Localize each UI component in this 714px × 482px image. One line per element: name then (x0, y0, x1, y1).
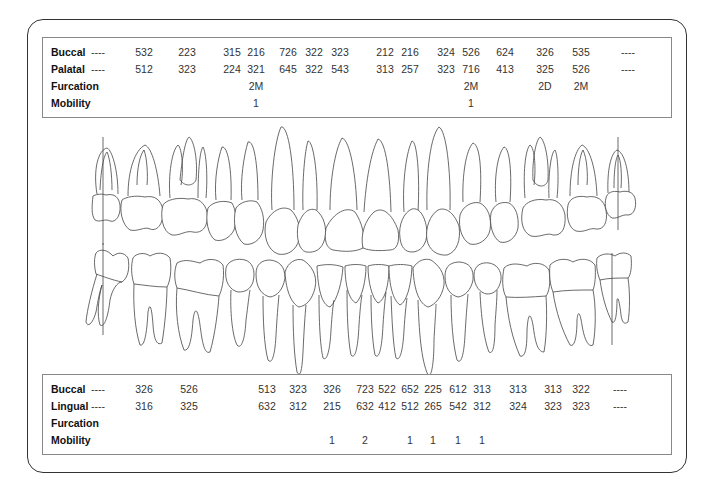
buccal-cell: 526 (462, 46, 480, 58)
lingual-cell: 323 (572, 400, 590, 412)
palatal-cell: 413 (496, 63, 514, 75)
lingual-cell: 312 (289, 400, 307, 412)
lingual-cell: ---- (91, 400, 105, 412)
upper-periodontal-table: Buccal ---- 532 223 315 216 726 322 323 … (42, 37, 672, 118)
lingual-cell: 325 (180, 400, 198, 412)
lingual-cell: 215 (323, 400, 341, 412)
mobility-cell: 1 (329, 434, 335, 446)
row-label-palatal: Palatal (51, 63, 85, 75)
buccal-cell: 513 (258, 383, 276, 395)
lingual-cell: 632 (258, 400, 276, 412)
buccal-cell: 535 (572, 46, 590, 58)
palatal-cell: ---- (91, 63, 105, 75)
furcation-cell: 2M (574, 80, 589, 92)
buccal-cell: 216 (247, 46, 265, 58)
palatal-cell: 716 (462, 63, 480, 75)
palatal-cell: 323 (178, 63, 196, 75)
row-label-buccal: Buccal (51, 46, 85, 58)
lingual-cell: 632 (356, 400, 374, 412)
upper-arch (92, 127, 636, 255)
buccal-cell: 313 (509, 383, 527, 395)
palatal-cell: 512 (135, 63, 153, 75)
mobility-cell: 1 (253, 97, 259, 109)
buccal-cell: 225 (424, 383, 442, 395)
buccal-row: Buccal ---- 532 223 315 216 726 322 323 … (43, 46, 671, 63)
buccal-cell: 612 (449, 383, 467, 395)
lower-arch (86, 243, 631, 375)
mobility-cell: 1 (430, 434, 436, 446)
buccal-cell: ---- (91, 46, 105, 58)
palatal-cell: ---- (621, 63, 635, 75)
buccal-cell: 315 (223, 46, 241, 58)
buccal-cell: 313 (473, 383, 491, 395)
buccal-cell: 652 (401, 383, 419, 395)
lingual-cell: 412 (378, 400, 396, 412)
buccal-cell: 322 (572, 383, 590, 395)
lingual-cell: 265 (424, 400, 442, 412)
lower-periodontal-table: Buccal ---- 326 526 513 323 326 723 522 … (42, 374, 672, 455)
palatal-cell: 322 (305, 63, 323, 75)
lingual-cell: 323 (544, 400, 562, 412)
buccal-cell: 326 (536, 46, 554, 58)
palatal-cell: 313 (376, 63, 394, 75)
furcation-cell: 2M (464, 80, 479, 92)
furcation-cell: 2D (538, 80, 551, 92)
palatal-cell: 321 (247, 63, 265, 75)
buccal-cell: 323 (331, 46, 349, 58)
buccal-cell: 216 (401, 46, 419, 58)
lingual-cell: 316 (135, 400, 153, 412)
furcation-row: Furcation (43, 417, 671, 434)
buccal-row: Buccal ---- 326 526 513 323 326 723 522 … (43, 383, 671, 400)
mobility-cell: 1 (468, 97, 474, 109)
buccal-cell: 526 (180, 383, 198, 395)
buccal-cell: 212 (376, 46, 394, 58)
palatal-cell: 323 (437, 63, 455, 75)
row-label-furcation: Furcation (51, 80, 99, 92)
buccal-cell: 723 (356, 383, 374, 395)
buccal-cell: 326 (323, 383, 341, 395)
furcation-cell: 2M (249, 80, 264, 92)
mobility-row: Mobility 1 1 (43, 97, 671, 114)
mobility-cell: 2 (362, 434, 368, 446)
buccal-cell: 522 (378, 383, 396, 395)
mobility-cell: 1 (479, 434, 485, 446)
buccal-cell: 322 (305, 46, 323, 58)
row-label-lingual: Lingual (51, 400, 88, 412)
furcation-row: Furcation 2M 2M 2D 2M (43, 80, 671, 97)
palatal-cell: 543 (331, 63, 349, 75)
row-label-mobility: Mobility (51, 434, 91, 446)
palatal-row: Palatal ---- 512 323 224 321 645 322 543… (43, 63, 671, 80)
palatal-cell: 325 (536, 63, 554, 75)
buccal-cell: 532 (135, 46, 153, 58)
mobility-cell: 1 (455, 434, 461, 446)
lingual-cell: ---- (613, 400, 627, 412)
palatal-cell: 257 (401, 63, 419, 75)
row-label-mobility: Mobility (51, 97, 91, 109)
palatal-cell: 645 (279, 63, 297, 75)
row-label-furcation: Furcation (51, 417, 99, 429)
buccal-cell: 326 (135, 383, 153, 395)
palatal-cell: 526 (572, 63, 590, 75)
buccal-cell: 726 (279, 46, 297, 58)
lingual-cell: 542 (449, 400, 467, 412)
buccal-cell: 313 (544, 383, 562, 395)
buccal-cell: ---- (613, 383, 627, 395)
lingual-cell: 512 (401, 400, 419, 412)
palatal-cell: 224 (223, 63, 241, 75)
lingual-cell: 312 (473, 400, 491, 412)
buccal-cell: 323 (289, 383, 307, 395)
lingual-row: Lingual ---- 316 325 632 312 215 632 412… (43, 400, 671, 417)
buccal-cell: 223 (178, 46, 196, 58)
buccal-cell: ---- (621, 46, 635, 58)
row-label-buccal: Buccal (51, 383, 85, 395)
buccal-cell: ---- (91, 383, 105, 395)
lingual-cell: 324 (509, 400, 527, 412)
mobility-row: Mobility 1 2 1 1 1 1 (43, 434, 671, 451)
mobility-cell: 1 (407, 434, 413, 446)
buccal-cell: 624 (496, 46, 514, 58)
buccal-cell: 324 (437, 46, 455, 58)
